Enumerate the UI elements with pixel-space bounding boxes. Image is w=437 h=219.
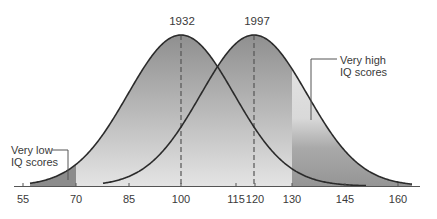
very-high-label-line2: IQ scores: [340, 66, 388, 78]
tick-label: 115: [227, 193, 245, 205]
tick-label: 120: [246, 193, 264, 205]
tick-label: 160: [389, 193, 407, 205]
tick-label: 145: [336, 193, 354, 205]
very-low-label-line1: Very low: [11, 144, 53, 156]
tick-label: 100: [172, 193, 190, 205]
tick-label: 85: [123, 193, 135, 205]
label-1997: 1997: [244, 15, 270, 27]
label-1932: 1932: [169, 15, 195, 27]
tick-label: 70: [70, 193, 82, 205]
very-high-annotation: Very high IQ scores: [311, 54, 388, 120]
very-high-label-line1: Very high: [340, 54, 386, 66]
tick-label: 130: [283, 193, 301, 205]
iq-distribution-chart: 557085100115120130145160 1932 1997 Very …: [0, 0, 437, 219]
very-low-label-line2: IQ scores: [11, 156, 59, 168]
tick-label: 55: [17, 193, 29, 205]
